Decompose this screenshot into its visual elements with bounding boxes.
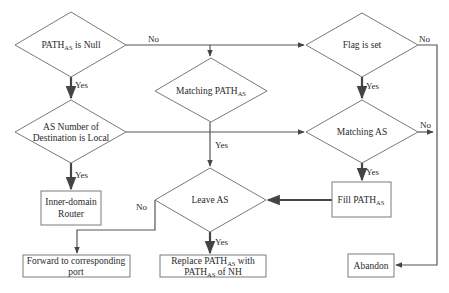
svg-text:Leave AS: Leave AS [191, 195, 228, 205]
decision-matching-as: Matching AS [306, 100, 418, 163]
process-forward-to-port: Forward to corresponding port [23, 255, 130, 277]
decision-path-as-is-null: PATHAS is Null [15, 12, 126, 77]
edge-label-as-local-yes: Yes [75, 170, 89, 180]
svg-text:Flag is set: Flag is set [343, 40, 382, 50]
svg-text:port: port [68, 267, 84, 277]
process-replace-path-as: Replace PATHAS with PATHAS of NH [160, 255, 266, 278]
svg-text:Inner-domain: Inner-domain [45, 197, 97, 207]
svg-text:Matching PATHAS: Matching PATHAS [176, 86, 246, 97]
edge-label-matching-path-yes: Yes [215, 140, 229, 150]
decision-as-number-local: AS Number of Destination is Local [15, 100, 126, 163]
svg-text:Abandon: Abandon [354, 261, 389, 271]
decision-leave-as: Leave AS [155, 168, 266, 232]
edge-label-matching-as-yes: Yes [366, 167, 380, 177]
edge-label-flag-no: No [419, 34, 430, 44]
svg-text:Forward to corresponding: Forward to corresponding [27, 256, 126, 266]
process-fill-path-as: Fill PATHAS [332, 182, 391, 217]
edge-label-leave-as-yes: Yes [215, 237, 229, 247]
edge-label-leave-as-no: No [136, 202, 147, 212]
process-abandon: Abandon [348, 254, 394, 277]
edge-label-path-null-no: No [148, 34, 159, 44]
decision-matching-path-as: Matching PATHAS [155, 58, 267, 122]
edge-flag-no [396, 45, 437, 265]
flowchart-canvas: No Yes No Yes Yes Yes No Yes No Yes PATH… [0, 0, 449, 293]
svg-text:Destination is Local: Destination is Local [33, 133, 110, 143]
svg-text:AS Number of: AS Number of [43, 122, 100, 132]
svg-text:Replace PATHAS with: Replace PATHAS with [171, 256, 255, 267]
process-inner-domain-router: Inner-domain Router [41, 191, 101, 225]
edge-label-flag-yes: Yes [366, 81, 380, 91]
svg-text:Router: Router [58, 209, 85, 219]
edge-label-matching-as-no: No [420, 120, 431, 130]
svg-text:Matching AS: Matching AS [337, 127, 387, 137]
decision-flag-is-set: Flag is set [306, 13, 418, 77]
edge-label-path-null-yes: Yes [75, 80, 89, 90]
